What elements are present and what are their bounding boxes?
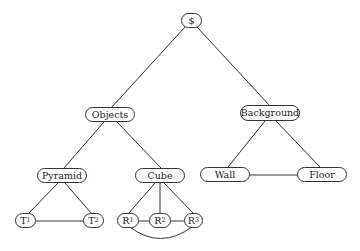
node-t2: T2 [83,213,104,228]
edge-root-objects [111,27,185,108]
node-r2-label: R [154,216,161,226]
node-r1-subscript: 1 [130,217,134,224]
node-cube-label: Cube [147,171,172,181]
node-background-label: Background [241,108,299,118]
edge-objects-cube [117,122,161,168]
edge-objects-pyramid [64,122,104,168]
edge-pyramid-t1 [28,183,58,214]
node-pyramid-label: Pyramid [42,171,82,181]
node-floor-label: Floor [309,170,335,180]
node-background: Background [240,105,300,121]
node-r2: R2 [149,213,171,228]
edge-root-background [197,27,270,106]
node-r1-label: R [122,216,129,226]
node-r2-subscript: 2 [162,217,166,224]
node-floor: Floor [297,167,347,182]
node-objects-label: Objects [92,110,128,120]
node-r3-label: R [188,216,195,226]
edge-cube-r3 [164,183,194,214]
node-t1: T1 [15,213,36,228]
node-r3-subscript: 3 [195,217,199,224]
node-root-label: $ [188,16,194,26]
node-pyramid: Pyramid [37,168,87,183]
edge-background-wall [228,121,265,167]
node-t2-subscript: 2 [95,217,99,224]
node-r3: R3 [184,213,203,228]
node-t1-subscript: 1 [27,217,31,224]
edge-background-floor [276,121,320,167]
edge-pyramid-t2 [65,183,92,214]
node-wall: Wall [200,167,250,182]
edge-r1-r3-arc [130,227,192,239]
node-wall-label: Wall [215,170,236,180]
diagram-canvas: $ Objects Background Pyramid Cube Wall F… [0,0,360,251]
edges-layer [0,0,360,251]
node-cube: Cube [135,168,185,183]
edge-cube-r1 [128,183,155,214]
node-objects: Objects [85,107,135,122]
node-r1: R1 [117,213,139,228]
node-root: $ [181,13,202,28]
